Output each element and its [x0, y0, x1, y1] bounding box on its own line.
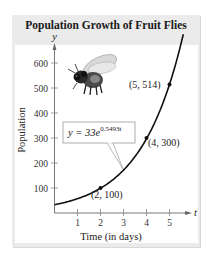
x-tick-label: 3: [121, 218, 126, 228]
y-tick-label: 400: [34, 109, 49, 119]
x-tick-label: 5: [167, 218, 172, 228]
chart-panel: Population Growth of Fruit Flies y t 100…: [12, 15, 200, 247]
equation-base: y = 33e: [67, 127, 100, 138]
x-tick-label: 1: [75, 218, 80, 228]
y-tick-label: 600: [34, 59, 49, 69]
y-tick-label: 300: [34, 134, 49, 144]
y-tick-label: 100: [34, 184, 49, 194]
x-axis-label: Time (in days): [80, 231, 142, 243]
chart-svg: Population Growth of Fruit Flies y t 100…: [12, 15, 200, 247]
point-label-5-514: (5, 514): [129, 79, 161, 91]
y-axis-symbol: y: [51, 31, 57, 42]
equation-exponent: 0.5493t: [100, 125, 121, 133]
y-axis-label: Population: [16, 107, 27, 153]
y-tick-label: 500: [34, 84, 49, 94]
x-tick-label: 4: [144, 218, 149, 228]
chart-title: Population Growth of Fruit Flies: [25, 19, 187, 32]
data-point: [168, 83, 172, 87]
y-tick-label: 200: [34, 159, 49, 169]
x-tick-label: 2: [98, 218, 103, 228]
point-label-4-300: (4, 300): [148, 137, 180, 149]
point-label-2-100: (2, 100): [91, 189, 123, 201]
